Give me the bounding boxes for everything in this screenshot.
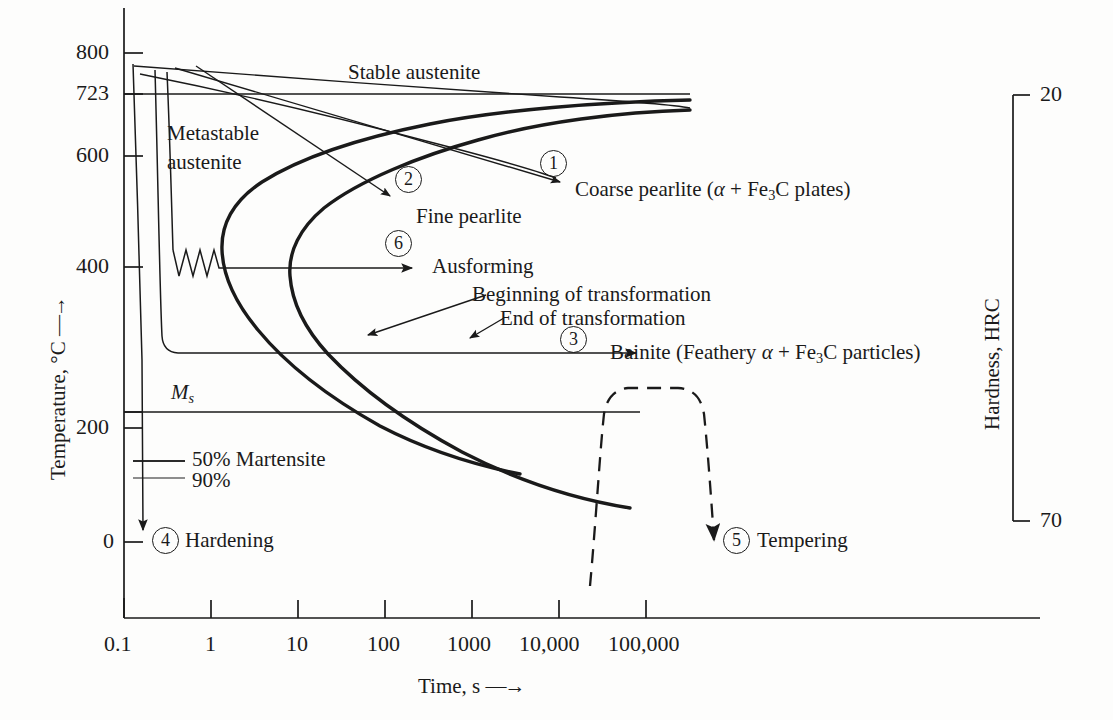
y-tick-723: 723 — [76, 82, 109, 104]
callout-2: 2 — [395, 166, 422, 193]
callout-5: 5 — [723, 527, 750, 554]
hardness-tick-70: 70 — [1040, 509, 1062, 531]
ms-subscript: s — [189, 390, 195, 406]
diagram-canvas — [0, 0, 1113, 720]
callout-6: 6 — [385, 230, 412, 257]
callout-1: 1 — [540, 150, 567, 177]
coarse-pearlite-text: Coarse pearlite ( — [575, 177, 714, 201]
label-50-percent-martensite: 50% Martensite — [192, 449, 326, 470]
callout-3: 3 — [560, 326, 587, 353]
ttt-diagram-figure: 800 723 600 400 200 0 0.1 1 10 100 1000 … — [0, 0, 1113, 720]
bainite-mid: + Fe — [773, 340, 816, 364]
label-fine-pearlite: Fine pearlite — [416, 206, 522, 227]
x-axis-title: Time, s —→ — [418, 676, 524, 697]
label-tempering: Tempering — [757, 530, 848, 551]
label-hardening: Hardening — [185, 530, 274, 551]
label-bainite: Bainite (Feathery α + Fe3C particles) — [610, 342, 921, 365]
y-tick-800: 800 — [76, 41, 109, 63]
callout-4: 4 — [152, 527, 179, 554]
x-axis-title-text: Time, s — [418, 674, 480, 698]
cooling-path-5-tempering — [590, 388, 714, 586]
label-ausforming: Ausforming — [432, 256, 534, 277]
label-90-percent-martensite: 90% — [192, 470, 231, 491]
x-tick-1000: 1000 — [447, 633, 491, 655]
x-tick-100: 100 — [367, 633, 400, 655]
label-beginning-of-transformation: Beginning of transformation — [472, 284, 711, 305]
y-axis-title-text: Temperature, °C — [46, 341, 70, 480]
hardness-axis-bracket — [1013, 95, 1030, 521]
x-axis — [124, 598, 1040, 618]
leader-end-of-transformation — [470, 318, 504, 338]
label-metastable-austenite-line1: Metastable — [167, 123, 259, 144]
bainite-end: C particles) — [823, 340, 920, 364]
label-ms: Ms — [171, 382, 194, 405]
coarse-pearlite-alpha: α — [714, 177, 725, 201]
y-tick-600: 600 — [76, 144, 109, 166]
ausforming-deformation-zigzag — [173, 250, 222, 276]
coarse-pearlite-end: C plates) — [775, 177, 850, 201]
y-tick-0: 0 — [103, 530, 114, 552]
x-tick-10: 10 — [286, 633, 308, 655]
label-metastable-austenite-line2: austenite — [167, 152, 242, 173]
leader-beginning-of-transformation — [368, 295, 486, 335]
y-axis-arrow-icon: —→ — [46, 298, 70, 336]
bainite-alpha: α — [762, 340, 773, 364]
label-end-of-transformation: End of transformation — [500, 308, 685, 329]
label-coarse-pearlite: Coarse pearlite (α + Fe3C plates) — [575, 179, 851, 202]
coarse-pearlite-mid: + Fe — [725, 177, 768, 201]
x-tick-1: 1 — [205, 633, 216, 655]
label-stable-austenite: Stable austenite — [348, 62, 480, 83]
right-axis-title: Hardness, HRC — [982, 298, 1003, 430]
ms-letter: M — [171, 380, 189, 404]
y-axis-title: Temperature, °C —→ — [48, 298, 69, 480]
y-tick-400: 400 — [76, 255, 109, 277]
bainite-text: Bainite (Feathery — [610, 340, 762, 364]
x-tick-10000: 10,000 — [519, 633, 580, 655]
x-tick-100000: 100,000 — [608, 633, 680, 655]
y-tick-200: 200 — [76, 416, 109, 438]
x-tick-0-1: 0.1 — [104, 633, 132, 655]
hardness-tick-20: 20 — [1040, 83, 1062, 105]
x-axis-arrow-icon: —→ — [486, 674, 524, 698]
